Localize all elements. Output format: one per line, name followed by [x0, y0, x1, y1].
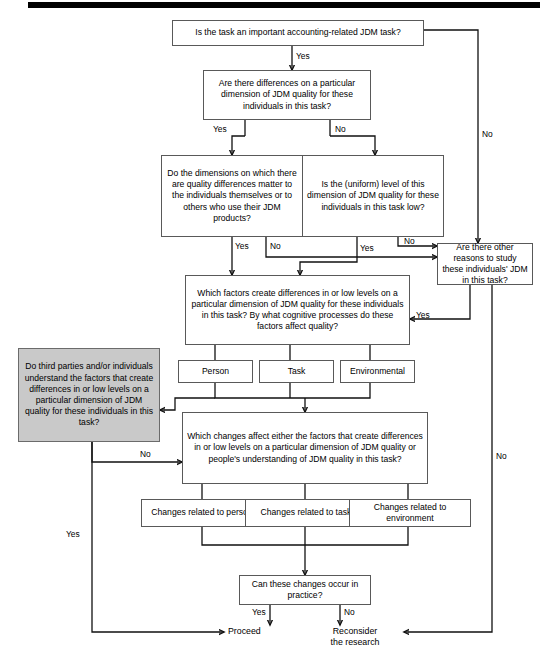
terminal-reconsider: Reconsider the research	[310, 626, 400, 648]
node-which-factors[interactable]: Which factors create differences in or l…	[185, 275, 410, 345]
node-which-changes-label: Which changes affect either the factors …	[187, 431, 423, 465]
edge-label-q3right-no: No	[404, 237, 415, 246]
edge-label-q3left-no: No	[270, 242, 281, 251]
terminal-reconsider-line2: the research	[331, 637, 380, 647]
node-changes-task-label: Changes related to task	[250, 507, 362, 518]
edge-label-practice-yes: Yes	[252, 608, 266, 617]
terminal-proceed: Proceed	[228, 626, 308, 637]
node-which-factors-label: Which factors create differences in or l…	[190, 288, 405, 333]
node-other-reasons[interactable]: Are there other reasons to study these i…	[437, 243, 533, 285]
edge-label-understand-no: No	[140, 450, 151, 459]
node-can-changes-occur-label: Can these changes occur in practice?	[244, 579, 366, 601]
node-q1-label: Is the task an important accounting-rela…	[177, 27, 419, 38]
node-factor-person[interactable]: Person	[178, 360, 253, 383]
edge-label-q3right-yes: Yes	[360, 244, 374, 253]
node-which-changes[interactable]: Which changes affect either the factors …	[182, 412, 428, 484]
edge-label-q1-no: No	[482, 130, 493, 139]
flowchart-canvas: Is the task an important accounting-rela…	[0, 0, 540, 660]
node-factor-task[interactable]: Task	[259, 360, 334, 383]
node-factor-environmental[interactable]: Environmental	[340, 360, 415, 383]
node-changes-environment-label: Changes related to environment	[354, 502, 466, 524]
edge-label-q1-yes: Yes	[296, 52, 310, 61]
edge-label-other-yes: Yes	[416, 311, 430, 320]
node-understand-label: Do third parties and/or individuals unde…	[23, 361, 155, 428]
node-q1[interactable]: Is the task an important accounting-rela…	[172, 20, 424, 46]
terminal-reconsider-line1: Reconsider	[333, 626, 378, 636]
header-rule	[28, 2, 540, 8]
edge-label-practice-no: No	[344, 608, 355, 617]
edge-label-q2-yes: Yes	[213, 125, 227, 134]
node-factor-person-label: Person	[183, 366, 248, 377]
edge-label-q2-no: No	[335, 125, 346, 134]
node-q3-right[interactable]: Is the (uniform) level of this dimension…	[302, 155, 444, 237]
node-other-reasons-label: Are there other reasons to study these i…	[442, 242, 528, 287]
edge-label-other-no: No	[496, 452, 507, 461]
node-q2[interactable]: Are there differences on a particular di…	[203, 70, 371, 120]
node-factor-task-label: Task	[264, 366, 329, 377]
node-q3-right-label: Is the (uniform) level of this dimension…	[307, 179, 439, 213]
node-changes-environment[interactable]: Changes related to environment	[349, 499, 471, 527]
terminal-proceed-label: Proceed	[228, 626, 261, 636]
node-q3-left[interactable]: Do the dimensions on which there are qua…	[161, 155, 303, 237]
node-understand[interactable]: Do third parties and/or individuals unde…	[18, 348, 160, 442]
node-can-changes-occur[interactable]: Can these changes occur in practice?	[239, 575, 371, 605]
node-q2-label: Are there differences on a particular di…	[208, 78, 366, 112]
node-factor-environmental-label: Environmental	[345, 366, 410, 377]
node-changes-person-label: Changes related to person	[146, 507, 258, 518]
edge-label-understand-yes: Yes	[66, 530, 80, 539]
node-q3-left-label: Do the dimensions on which there are qua…	[166, 168, 298, 224]
edge-label-q3left-yes: Yes	[235, 242, 249, 251]
